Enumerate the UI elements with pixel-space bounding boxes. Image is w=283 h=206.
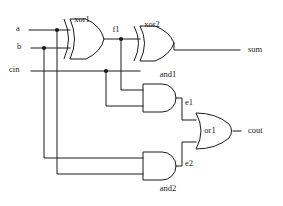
gate-label-xor1: xor1 bbox=[74, 14, 90, 24]
gate-label-and1: and1 bbox=[160, 69, 177, 79]
gate-label-and2: and2 bbox=[160, 183, 177, 193]
and2-body bbox=[143, 152, 176, 180]
input-wires bbox=[29, 30, 140, 71]
junction-f1-tap bbox=[119, 37, 123, 41]
xor2-body bbox=[140, 26, 174, 61]
circuit-canvas: a b cin xor1 xor2 and1 and2 or1 f1 e1 e2… bbox=[0, 0, 283, 206]
gate-xor2 bbox=[134, 26, 240, 61]
xor2-output-wire bbox=[174, 43, 240, 50]
junction-a-tap bbox=[55, 28, 59, 32]
gate-or1 bbox=[196, 113, 241, 149]
wire-cin-to-and1 bbox=[106, 71, 143, 106]
output-label-sum: sum bbox=[248, 44, 263, 54]
junction-dots bbox=[42, 28, 123, 73]
net-label-e1: e1 bbox=[185, 97, 193, 107]
and1-body bbox=[143, 84, 176, 112]
circuit-diagram: a b cin xor1 xor2 and1 and2 or1 f1 e1 e2… bbox=[0, 0, 283, 206]
xor1-body bbox=[70, 19, 104, 59]
wire-a-to-and2 bbox=[57, 30, 143, 174]
net-label-f1: f1 bbox=[112, 24, 119, 34]
junction-b-tap bbox=[42, 46, 46, 50]
xor1-back-arc bbox=[64, 19, 69, 59]
input-label-cin: cin bbox=[9, 64, 20, 74]
gate-xor1 bbox=[64, 19, 140, 59]
net-f1-wires bbox=[121, 39, 143, 90]
wire-b-to-and2 bbox=[44, 48, 143, 158]
output-label-cout: cout bbox=[248, 125, 263, 135]
net-cin-wires bbox=[106, 71, 143, 106]
input-label-b: b bbox=[17, 41, 21, 51]
xor2-back-arc bbox=[134, 26, 139, 61]
gate-label-or1: or1 bbox=[204, 125, 215, 135]
net-label-e2: e2 bbox=[185, 158, 193, 168]
gate-label-xor2: xor2 bbox=[144, 19, 160, 29]
junction-cin-tap bbox=[104, 69, 108, 73]
wire-f1-to-and1 bbox=[121, 39, 143, 90]
input-label-a: a bbox=[16, 23, 20, 33]
